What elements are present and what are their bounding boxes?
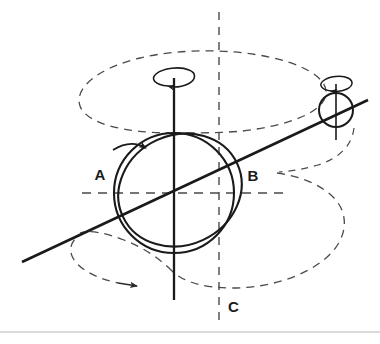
diagram-canvas: A B C [0, 0, 380, 344]
precession-diagram-figure: A B C [0, 0, 380, 344]
satellite-circle [319, 84, 353, 140]
tilted-orbital-axis-line [22, 100, 368, 262]
satellite-precession-connector [279, 128, 354, 172]
label-c: C [228, 298, 239, 315]
label-a: A [95, 166, 106, 183]
lower-precession-dashed-ellipse [80, 173, 344, 288]
tilted-equator-ellipse [100, 114, 261, 267]
label-b: B [248, 167, 259, 184]
upper-precession-dashed-ellipse [79, 51, 326, 133]
precession-direction-arrow [71, 232, 137, 286]
